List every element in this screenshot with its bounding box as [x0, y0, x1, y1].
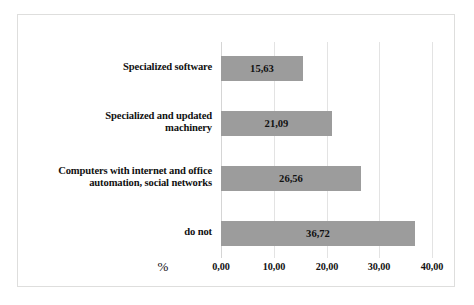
bar-value-label: 26,56: [221, 166, 361, 191]
category-label: Specialized and updated machinery: [12, 110, 212, 135]
xtick-label-30: 30,00: [349, 261, 409, 272]
category-label-line2: machinery: [165, 122, 212, 133]
xtick-label-20: 20,00: [297, 261, 357, 272]
category-label: Computers with internet and office autom…: [12, 165, 212, 190]
bar-chart-figure: Specialized software 15,63 Specialized a…: [0, 0, 474, 305]
category-label-line1: Computers with internet and office: [58, 165, 212, 176]
axis-unit-label: %: [138, 259, 188, 275]
category-label-line1: Specialized and updated: [105, 110, 212, 121]
bar-row: do not 36,72: [0, 221, 474, 246]
plot-area: Specialized software 15,63 Specialized a…: [0, 0, 474, 305]
bar-value-label: 15,63: [221, 56, 303, 81]
category-label: do not: [12, 226, 212, 238]
bar-value-label: 21,09: [221, 111, 332, 136]
category-label-line2: automation, social networks: [89, 177, 212, 188]
bar-value-label: 36,72: [221, 221, 415, 246]
bar-row: Specialized software 15,63: [0, 56, 474, 81]
bar-row: Specialized and updated machinery 21,09: [0, 111, 474, 136]
category-label: Specialized software: [12, 61, 212, 73]
xtick-label-0: 0,00: [191, 261, 251, 272]
category-label-line1: do not: [184, 226, 212, 237]
xtick-label-10: 10,00: [244, 261, 304, 272]
xtick-label-40: 40,00: [402, 261, 462, 272]
category-label-line1: Specialized software: [123, 61, 212, 72]
bar-row: Computers with internet and office autom…: [0, 166, 474, 191]
